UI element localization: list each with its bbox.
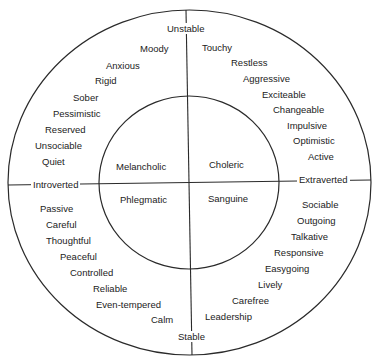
trait-active: Active bbox=[308, 151, 334, 162]
temperament-phlegmatic: Phlegmatic bbox=[120, 194, 167, 205]
trait-changeable: Changeable bbox=[273, 104, 324, 115]
trait-unsociable: Unsociable bbox=[35, 140, 82, 151]
axis-label-introverted: Introverted bbox=[31, 179, 80, 190]
trait-rigid: Rigid bbox=[95, 75, 117, 86]
trait-exciteable: Exciteable bbox=[262, 89, 306, 100]
personality-circle-diagram: Unstable Stable Introverted Extraverted … bbox=[0, 0, 373, 362]
trait-peaceful: Peaceful bbox=[60, 251, 97, 262]
trait-leadership: Leadership bbox=[205, 311, 252, 322]
trait-controlled: Controlled bbox=[70, 267, 113, 278]
trait-aggressive: Aggressive bbox=[243, 73, 290, 84]
temperament-sanguine: Sanguine bbox=[208, 193, 248, 204]
trait-easygoing: Easygoing bbox=[265, 263, 309, 274]
trait-anxious: Anxious bbox=[106, 60, 140, 71]
trait-careful: Careful bbox=[46, 219, 77, 230]
trait-pessimistic: Pessimistic bbox=[53, 108, 101, 119]
temperament-choleric: Choleric bbox=[209, 159, 244, 170]
axis-label-extraverted: Extraverted bbox=[297, 174, 350, 185]
trait-reserved: Reserved bbox=[45, 124, 86, 135]
trait-reliable: Reliable bbox=[93, 283, 127, 294]
axis-label-stable: Stable bbox=[176, 331, 207, 342]
trait-even-tempered: Even-tempered bbox=[96, 299, 161, 310]
trait-moody: Moody bbox=[140, 43, 169, 54]
trait-optimistic: Optimistic bbox=[293, 135, 335, 146]
trait-outgoing: Outgoing bbox=[297, 215, 336, 226]
temperament-melancholic: Melancholic bbox=[116, 161, 166, 172]
trait-calm: Calm bbox=[151, 314, 173, 325]
trait-talkative: Talkative bbox=[291, 231, 328, 242]
trait-lively: Lively bbox=[258, 279, 282, 290]
trait-responsive: Responsive bbox=[274, 247, 324, 258]
trait-sober: Sober bbox=[73, 92, 98, 103]
axis-label-unstable: Unstable bbox=[165, 23, 207, 34]
trait-touchy: Touchy bbox=[202, 42, 232, 53]
trait-passive: Passive bbox=[40, 203, 73, 214]
trait-restless: Restless bbox=[231, 57, 267, 68]
trait-carefree: Carefree bbox=[232, 295, 269, 306]
trait-thoughtful: Thoughtful bbox=[46, 235, 91, 246]
trait-impulsive: Impulsive bbox=[287, 120, 327, 131]
trait-sociable: Sociable bbox=[302, 199, 338, 210]
trait-quiet: Quiet bbox=[42, 156, 65, 167]
